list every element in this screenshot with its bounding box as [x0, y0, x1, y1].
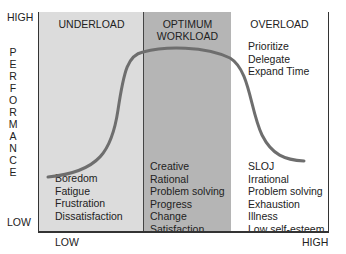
x-axis-high-label: HIGH [302, 236, 328, 248]
x-axis-low-label: LOW [55, 236, 79, 248]
performance-curve [0, 0, 346, 254]
